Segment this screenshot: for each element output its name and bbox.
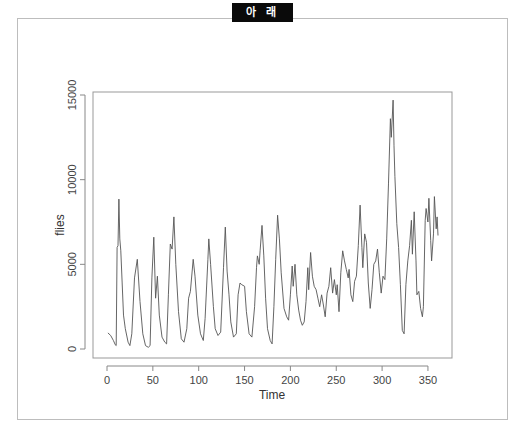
x-axis-label: Time	[259, 388, 286, 402]
plot-box	[93, 92, 452, 358]
x-tick-label: 250	[327, 374, 345, 386]
x-tick-label: 200	[281, 374, 299, 386]
x-tick-label: 50	[147, 374, 159, 386]
x-tick-label: 100	[190, 374, 208, 386]
flies-series-line	[108, 100, 438, 347]
y-tick-label: 15000	[66, 80, 78, 111]
line-chart: 050001000015000 050100150200250300350 Ti…	[0, 0, 528, 442]
x-tick-label: 350	[419, 374, 437, 386]
x-tick-label: 300	[373, 374, 391, 386]
y-tick-label: 0	[66, 346, 78, 352]
x-axis: 050100150200250300350	[104, 366, 437, 386]
x-tick-label: 150	[235, 374, 253, 386]
y-axis-label: flies	[53, 214, 67, 235]
y-tick-label: 10000	[66, 164, 78, 195]
y-tick-label: 5000	[66, 252, 78, 276]
y-axis: 050001000015000	[66, 80, 85, 352]
x-tick-label: 0	[104, 374, 110, 386]
